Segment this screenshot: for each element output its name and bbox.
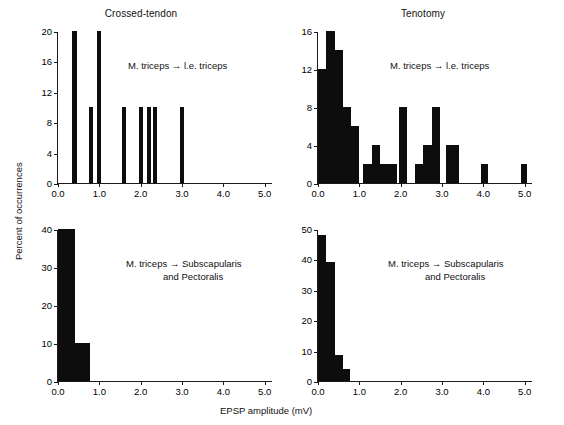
x-axis-tick-label: 3.0 [175,387,188,397]
x-axis-tick-label: 4.0 [477,387,490,397]
y-axis-tick-label: 20 [301,316,312,326]
x-axis-tick [182,381,183,385]
histogram-bar [180,107,184,183]
histogram-bar [58,229,66,381]
histogram-bar [388,164,396,183]
x-axis-tick-label: 1.0 [93,387,106,397]
histogram-bar [481,164,487,183]
histogram-bar [139,107,143,183]
plot-area-bottom-left: 0102030400.01.02.03.04.05.0M. triceps → … [57,230,272,382]
panel-bottom-left: 0102030400.01.02.03.04.05.0M. triceps → … [0,212,282,425]
y-axis-tick-label: 30 [301,286,312,296]
x-axis-tick-label: 3.0 [435,189,448,199]
plot-area-top-left: 0481216200.01.02.03.04.05.0M. triceps → … [57,32,272,184]
x-axis-tick-label: 2.0 [394,387,407,397]
panel-top-left: Crossed-tendon 0481216200.01.02.03.04.05… [0,0,282,212]
histogram-bar [335,50,343,183]
x-axis-tick-label: 5.0 [518,189,531,199]
x-axis-tick-label: 5.0 [258,189,271,199]
panel-annotation: M. triceps → Subscapularis and Pectorali… [126,258,242,284]
y-axis-tick-label: 40 [41,225,52,235]
x-axis-tick [525,183,526,187]
histogram-bar [343,369,350,381]
panel-annotation: M. triceps → Subscapularis and Pectorali… [388,258,504,284]
histogram-bar [363,164,371,183]
x-axis-tick [525,381,526,385]
histogram-bar [415,164,423,183]
y-axis-tick-label: 12 [41,88,52,98]
x-axis-tick [141,381,142,385]
x-axis-tick [442,381,443,385]
x-axis-tick [318,183,319,187]
plot-area-top-right: 04812160.01.02.03.04.05.0M. triceps → l.… [317,32,532,184]
histogram-bar [66,229,74,381]
x-axis-tick-label: 4.0 [217,189,230,199]
histogram-bar [75,343,83,381]
histogram-bar [432,107,440,183]
histogram-bar [343,107,351,183]
histogram-bar [326,262,334,381]
x-axis-tick [99,183,100,187]
x-axis-tick [58,183,59,187]
x-axis-tick-label: 3.0 [435,387,448,397]
y-axis-tick [54,123,58,124]
x-axis-tick-label: 5.0 [258,387,271,397]
x-axis-tick-label: 0.0 [311,189,324,199]
x-axis-tick-label: 2.0 [394,189,407,199]
x-axis-tick [401,183,402,187]
x-axis-tick-label: 0.0 [311,387,324,397]
panel-title-tenotomy: Tenotomy [282,8,564,19]
x-axis-tick-label: 0.0 [51,189,64,199]
figure-container: Percent of occurrences EPSP amplitude (m… [0,0,564,425]
y-axis-tick-label: 4 [47,149,52,159]
panel-top-right: Tenotomy 04812160.01.02.03.04.05.0M. tri… [282,0,564,212]
x-axis-tick-label: 2.0 [134,387,147,397]
histogram-bar [72,31,76,183]
panel-title-crossed-tendon: Crossed-tendon [0,8,282,19]
x-axis-tick-label: 0.0 [51,387,64,397]
y-axis-tick-label: 10 [301,347,312,357]
histogram-bar [318,235,326,381]
x-axis-tick-label: 1.0 [93,189,106,199]
histogram-bar [89,107,93,183]
histogram-bar [122,107,126,183]
y-axis-tick-label: 16 [301,27,312,37]
histogram-bar [153,107,157,183]
y-axis-tick-label: 20 [41,27,52,37]
x-axis-tick-label: 1.0 [353,387,366,397]
y-axis-tick-label: 10 [41,339,52,349]
y-axis-tick [314,230,318,231]
panel-annotation: M. triceps → l.e. triceps [390,60,489,73]
x-axis-tick [265,183,266,187]
y-axis-tick [314,32,318,33]
histogram-bar [521,164,527,183]
y-axis-tick [54,154,58,155]
x-axis-tick-label: 1.0 [353,189,366,199]
y-axis-tick-label: 12 [301,65,312,75]
histogram-bar [318,69,326,183]
y-axis-tick-label: 40 [301,256,312,266]
y-axis-tick-label: 4 [307,141,312,151]
x-axis-tick-label: 4.0 [217,387,230,397]
histogram-bar [351,126,359,183]
x-axis-tick-label: 2.0 [134,189,147,199]
x-axis-tick [483,183,484,187]
y-axis-tick [54,93,58,94]
x-axis-tick [58,381,59,385]
histogram-bar [335,355,343,381]
x-axis-tick [141,183,142,187]
histogram-bar [380,164,388,183]
histogram-bar [326,31,334,183]
x-axis-tick [182,183,183,187]
y-axis-tick [54,32,58,33]
histogram-bar [97,31,101,183]
x-axis-tick [442,183,443,187]
panel-bottom-right: 010203040500.01.02.03.04.05.0M. triceps … [282,212,564,425]
histogram-bar [83,343,90,381]
x-axis-tick [265,381,266,385]
x-axis-tick [99,381,100,385]
x-axis-tick-label: 3.0 [175,189,188,199]
x-axis-tick [483,381,484,385]
x-axis-tick-label: 4.0 [477,189,490,199]
histogram-bar [399,107,407,183]
